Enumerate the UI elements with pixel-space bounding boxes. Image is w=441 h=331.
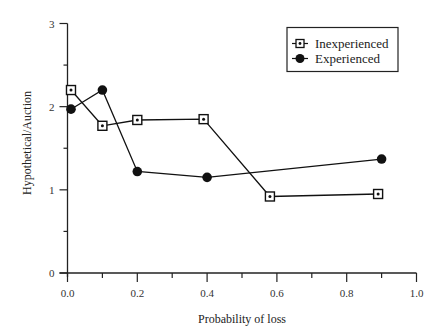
series-line [71, 90, 382, 177]
marker-dot [101, 124, 104, 127]
x-tick-label: 0.8 [340, 287, 354, 299]
circle-marker-icon [66, 104, 76, 114]
circle-marker-icon [377, 154, 387, 164]
y-tick-label: 1 [49, 184, 55, 196]
y-tick-label: 0 [49, 267, 55, 279]
circle-marker-icon [296, 54, 305, 63]
series-inexperienced [66, 86, 382, 201]
x-tick-label: 0.0 [61, 287, 75, 299]
y-axis-label: Hypothetical/Auction [20, 91, 34, 195]
marker-dot [202, 118, 205, 121]
x-tick-label: 1.0 [410, 287, 424, 299]
line-chart: 01230.00.20.40.60.81.0 Probability of lo… [0, 0, 441, 331]
legend: Inexperienced Experienced [287, 28, 398, 72]
marker-dot [69, 89, 72, 92]
marker-dot [268, 195, 271, 198]
y-tick-label: 2 [49, 101, 55, 113]
x-axis-label: Probability of loss [198, 312, 286, 326]
circle-marker-icon [98, 85, 108, 95]
marker-dot [136, 118, 139, 121]
circle-marker-icon [133, 167, 143, 177]
legend-label-experienced: Experienced [315, 51, 380, 66]
x-tick-label: 0.2 [130, 287, 144, 299]
x-tick-label: 0.6 [270, 287, 284, 299]
legend-label-inexperienced: Inexperienced [315, 36, 389, 51]
x-tick-label: 0.4 [200, 287, 214, 299]
circle-marker-icon [202, 173, 212, 183]
y-tick-label: 3 [49, 18, 55, 30]
marker-dot [377, 192, 380, 195]
series-experienced [66, 85, 386, 182]
series-layer [66, 85, 386, 201]
series-line [71, 90, 378, 197]
